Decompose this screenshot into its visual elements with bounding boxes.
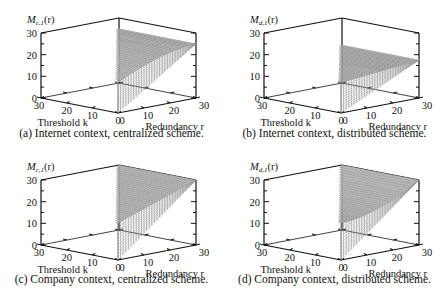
surface-mesh [338, 165, 419, 260]
svg-text:10: 10 [87, 257, 98, 268]
svg-text:0: 0 [119, 115, 124, 126]
svg-text:20: 20 [284, 105, 295, 116]
surface-plot-a: 010203030201000102030Threshold kRedundan… [0, 0, 223, 148]
svg-text:20: 20 [392, 105, 403, 116]
svg-text:20: 20 [61, 105, 72, 116]
svg-text:20: 20 [169, 252, 180, 263]
svg-text:20: 20 [61, 252, 72, 263]
svg-text:30: 30 [34, 100, 45, 111]
caption-d: (d) Company context, distributed scheme. [223, 273, 446, 285]
svg-text:20: 20 [250, 197, 261, 208]
z-axis-label: Md,1(r) [249, 161, 278, 174]
svg-text:30: 30 [27, 175, 38, 186]
caption-a: (a) Internet context, centralized scheme… [0, 127, 223, 139]
panel-d: 010203030201000102030Threshold kRedundan… [223, 148, 446, 296]
svg-text:30: 30 [250, 28, 261, 39]
svg-text:10: 10 [310, 257, 321, 268]
panel-a: 010203030201000102030Threshold kRedundan… [0, 0, 223, 148]
svg-text:10: 10 [250, 218, 261, 229]
svg-text:20: 20 [169, 105, 180, 116]
surface-mesh [115, 165, 196, 260]
svg-text:10: 10 [87, 110, 98, 121]
svg-text:30: 30 [257, 247, 268, 258]
svg-text:30: 30 [257, 100, 268, 111]
surface-mesh [338, 45, 419, 113]
caption-b: (b) Internet context, distributed scheme… [223, 127, 446, 139]
z-axis-label: Mc,1(r) [26, 14, 55, 27]
svg-text:30: 30 [27, 28, 38, 39]
svg-text:10: 10 [27, 218, 38, 229]
caption-c: (c) Company context, centralized scheme. [0, 273, 223, 285]
svg-text:20: 20 [392, 252, 403, 263]
surface-plot-b: 010203030201000102030Threshold kRedundan… [223, 0, 446, 148]
svg-text:30: 30 [422, 247, 433, 258]
svg-text:20: 20 [284, 252, 295, 263]
svg-text:10: 10 [143, 257, 154, 268]
svg-text:0: 0 [342, 262, 347, 273]
panel-c: 010203030201000102030Threshold kRedundan… [0, 148, 223, 296]
svg-text:30: 30 [422, 100, 433, 111]
svg-text:10: 10 [310, 110, 321, 121]
svg-text:30: 30 [199, 247, 210, 258]
panel-b: 010203030201000102030Threshold kRedundan… [223, 0, 446, 148]
svg-text:10: 10 [143, 110, 154, 121]
svg-text:10: 10 [366, 257, 377, 268]
z-axis-label: Mc,1(r) [26, 161, 55, 174]
svg-text:20: 20 [27, 197, 38, 208]
svg-text:0: 0 [342, 115, 347, 126]
svg-text:30: 30 [34, 247, 45, 258]
svg-text:20: 20 [27, 50, 38, 61]
z-axis-label: Md,1(r) [249, 14, 278, 27]
svg-text:20: 20 [250, 50, 261, 61]
svg-text:10: 10 [250, 71, 261, 82]
svg-text:10: 10 [366, 110, 377, 121]
svg-text:10: 10 [27, 71, 38, 82]
svg-text:0: 0 [119, 262, 124, 273]
svg-text:30: 30 [199, 100, 210, 111]
svg-text:30: 30 [250, 175, 261, 186]
